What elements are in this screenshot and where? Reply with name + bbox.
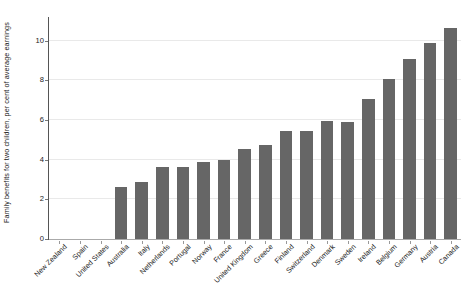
x-axis-tick-label: Ireland [259, 243, 377, 303]
y-axis-tick-mark [45, 41, 48, 42]
x-axis-tick-label: Portugal [74, 243, 192, 303]
gridline [49, 119, 461, 120]
bar [156, 167, 169, 239]
y-axis-tick-label: 6 [20, 116, 44, 124]
bar [135, 182, 148, 239]
gridline [49, 79, 461, 80]
y-axis-tick-mark [45, 80, 48, 81]
gridline [49, 159, 461, 160]
y-axis-tick-labels: 0246810 [14, 17, 44, 240]
x-axis-tick-labels: New ZealandSpainUnited StatesAustraliaIt… [49, 241, 461, 303]
x-axis-tick-label: Belgium [280, 243, 398, 303]
y-axis-tick-mark [45, 239, 48, 240]
x-axis-tick-label: Greece [156, 243, 274, 303]
bar [341, 122, 354, 239]
bar [444, 28, 457, 239]
x-axis-tick-label: Finland [177, 243, 295, 303]
bar [218, 160, 231, 239]
x-axis-tick-label: Norway [94, 243, 212, 303]
bar [362, 99, 375, 239]
y-axis-title: Family benefits for two children, per ce… [0, 0, 14, 245]
gridline [49, 198, 461, 199]
bar [424, 43, 437, 239]
y-axis-tick-mark [45, 199, 48, 200]
gridline [49, 40, 461, 41]
y-axis-tick-label: 4 [20, 156, 44, 164]
plot-area [49, 17, 461, 239]
x-axis-tick-label: Austria [321, 243, 439, 303]
bar [259, 145, 272, 239]
bar [403, 59, 416, 239]
x-axis-tick-label: France [115, 243, 233, 303]
x-axis-tick-label: Canada [342, 243, 460, 303]
bar [300, 131, 313, 239]
x-axis-tick-label: Sweden [239, 243, 357, 303]
bar [238, 149, 251, 239]
y-axis-tick-mark [45, 160, 48, 161]
y-axis-tick-mark [45, 120, 48, 121]
x-axis-tick-label: Netherlands [53, 243, 171, 303]
x-axis-tick-label: Denmark [218, 243, 336, 303]
y-axis-tick-label: 0 [20, 235, 44, 243]
bar [177, 167, 190, 239]
bar [115, 187, 128, 239]
y-axis-tick-label: 8 [20, 77, 44, 85]
bar [321, 121, 334, 239]
bar [197, 162, 210, 239]
bar [280, 131, 293, 239]
x-axis-tick-label: Switzerland [197, 243, 315, 303]
x-axis-tick-label: Italy [33, 243, 151, 303]
bar [383, 79, 396, 239]
x-axis-tick-label: Australia [12, 243, 130, 303]
bar-chart: Family benefits for two children, per ce… [0, 0, 468, 303]
y-axis-tick-label: 2 [20, 196, 44, 204]
x-axis-line [49, 239, 461, 240]
y-axis-tick-label: 10 [20, 37, 44, 45]
x-axis-tick-label: Germany [300, 243, 418, 303]
x-axis-tick-label: United Kingdom [136, 243, 254, 303]
